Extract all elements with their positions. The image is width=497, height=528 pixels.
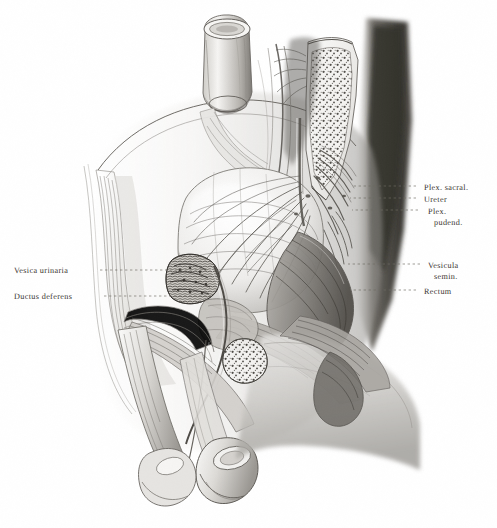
label-text: Ureter <box>424 195 447 204</box>
label-text: Rectum <box>424 287 452 296</box>
label-plex-sacral: Plex. sacral. <box>424 183 468 194</box>
label-text: Ductus deferens <box>14 292 72 301</box>
label-text-line2: pudend. <box>428 218 463 229</box>
label-rectum: Rectum <box>424 287 452 298</box>
label-text: Plex. sacral. <box>424 183 468 192</box>
label-plex-pudend: Plex.pudend. <box>428 207 463 228</box>
halftone-grain <box>0 0 497 528</box>
label-ureter: Ureter <box>424 195 447 206</box>
label-text: Vesica urinaria <box>14 266 68 275</box>
label-text-line2: semin. <box>428 272 459 283</box>
label-text: Plex. <box>428 207 446 216</box>
anatomical-illustration <box>0 0 497 528</box>
label-vesicula-semin: Vesiculasemin. <box>428 261 459 282</box>
label-text: Vesicula <box>428 261 459 270</box>
